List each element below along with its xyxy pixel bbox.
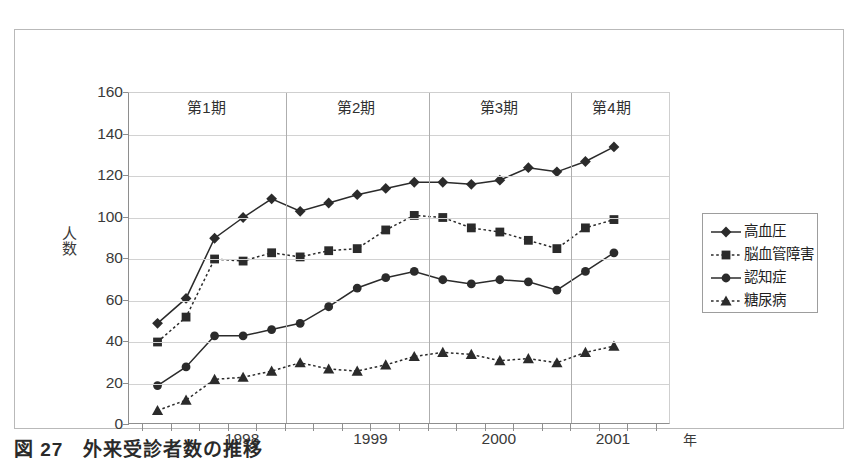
triangle-marker-icon [709,293,743,309]
x-tick-label: 2000 [482,430,516,448]
gridline [129,301,669,302]
legend-item[interactable]: 脳血管障害 [703,243,817,266]
y-tick-label: 40 [83,333,123,349]
series-4 [152,341,620,416]
plot-area [128,92,670,424]
legend-item[interactable]: 高血圧 [703,220,817,243]
gridline [129,259,669,260]
x-tick-label: 1999 [353,430,387,448]
diamond-marker-icon [709,224,743,240]
gridline [129,342,669,343]
x-axis-title: 年 [683,429,697,449]
legend-label: 高血圧 [744,224,786,239]
figure-frame: 人数 160140120100806040200 第1期第2期第3期第4期 19… [14,29,844,429]
y-tick-label: 60 [83,292,123,308]
y-tick-label: 160 [83,84,123,100]
legend-item[interactable]: 認知症 [703,266,817,289]
period-divider [571,93,572,423]
gridline [129,135,669,136]
legend-label: 認知症 [744,270,786,285]
gridline [129,218,669,219]
y-tick-label: 140 [83,126,123,142]
legend-label: 脳血管障害 [744,247,814,262]
square-marker-icon [709,247,743,263]
chart-legend: 高血圧脳血管障害認知症糖尿病 [702,213,818,313]
gridline [129,176,669,177]
gridline [129,384,669,385]
period-divider [286,93,287,423]
figure-caption: 図 27 外来受診者数の推移 [14,434,263,461]
period-divider [429,93,430,423]
y-tick-label: 120 [83,167,123,183]
y-tick-label: 0 [83,416,123,432]
x-tick-label: 2001 [596,430,630,448]
y-axis-tick-labels: 160140120100806040200 [77,92,123,424]
y-tick-label: 100 [83,209,123,225]
y-tick-label: 20 [83,375,123,391]
y-axis-title: 人数 [59,226,79,257]
legend-item[interactable]: 糖尿病 [703,289,817,312]
circle-marker-icon [709,270,743,286]
legend-label: 糖尿病 [744,293,786,308]
y-tick-label: 80 [83,250,123,266]
